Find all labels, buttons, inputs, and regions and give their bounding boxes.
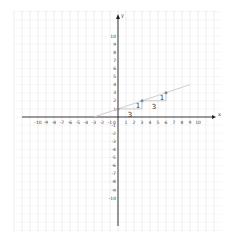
y-tick-label: 4 — [113, 82, 116, 87]
data-point — [165, 91, 168, 94]
run-label: 3 — [152, 103, 156, 111]
y-tick-label: -6 — [112, 163, 117, 168]
y-tick-label: -9 — [112, 188, 117, 193]
y-tick-label: 7 — [113, 58, 116, 63]
x-axis-label: x — [218, 111, 221, 117]
coordinate-graph: xy -10-9-8-7-6-5-4-3-2-11234567891010987… — [0, 0, 232, 242]
y-axis-arrow-icon — [116, 14, 120, 19]
x-tick-label: -6 — [68, 120, 73, 125]
y-tick-label: -2 — [112, 131, 117, 136]
x-tick-label: 4 — [149, 120, 152, 125]
y-tick-label: 5 — [113, 74, 116, 79]
x-tick-label: -10 — [34, 120, 41, 125]
x-tick-label: 7 — [173, 120, 176, 125]
data-point — [141, 99, 144, 102]
x-tick-label: 9 — [189, 120, 192, 125]
run-label: 3 — [128, 111, 132, 119]
x-tick-label: 1 — [125, 120, 128, 125]
y-tick-label: -10 — [109, 196, 116, 201]
x-tick-label: -8 — [52, 120, 57, 125]
x-tick-label: 10 — [195, 120, 201, 125]
x-tick-label: -7 — [60, 120, 65, 125]
rise-label: 1 — [160, 94, 164, 102]
y-tick-label: 2 — [113, 98, 116, 103]
rise-label: 1 — [136, 102, 140, 110]
y-tick-label: -7 — [112, 171, 117, 176]
y-tick-label: 9 — [113, 42, 116, 47]
y-tick-label: 3 — [113, 90, 116, 95]
x-tick-label: 2 — [133, 120, 136, 125]
data-point — [117, 107, 120, 110]
origin-label: 0 — [113, 120, 116, 125]
x-tick-label: -5 — [76, 120, 81, 125]
y-tick-label: -8 — [112, 179, 117, 184]
x-tick-label: 5 — [157, 120, 160, 125]
x-tick-label: 3 — [141, 120, 144, 125]
y-tick-label: 10 — [110, 34, 116, 39]
y-axis-label: y — [121, 12, 124, 19]
y-tick-label: -5 — [112, 155, 117, 160]
y-tick-label: -4 — [112, 147, 117, 152]
x-tick-label: 6 — [165, 120, 168, 125]
x-tick-label: -3 — [92, 120, 97, 125]
graph-svg: xy -10-9-8-7-6-5-4-3-2-11234567891010987… — [0, 0, 232, 242]
x-tick-label: -9 — [44, 120, 49, 125]
y-tick-label: -3 — [112, 139, 117, 144]
x-tick-label: -4 — [84, 120, 89, 125]
y-tick-label: 6 — [113, 66, 116, 71]
y-tick-label: 8 — [113, 50, 116, 55]
x-tick-label: -2 — [100, 120, 105, 125]
x-tick-label: 8 — [181, 120, 184, 125]
